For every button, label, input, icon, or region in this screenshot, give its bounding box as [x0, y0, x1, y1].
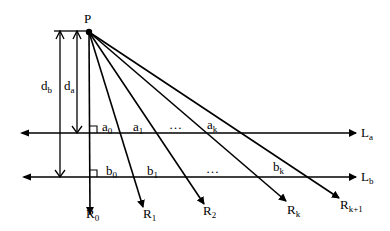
label-Rk: Rk [287, 203, 300, 219]
label-da: da [64, 79, 75, 95]
label-b1: b1 [147, 164, 158, 180]
label-R1: R1 [143, 207, 156, 223]
diagram-lines [0, 0, 390, 231]
right-angle-a [90, 126, 97, 133]
right-angle-b [90, 170, 97, 177]
label-La: La [361, 126, 373, 142]
ray-R0 [89, 32, 90, 214]
label-ak: ak [207, 118, 217, 134]
label-b0: b0 [106, 164, 117, 180]
ray-Rk [89, 32, 286, 201]
label-a-ellipsis: … [169, 118, 182, 131]
label-bk: bk [273, 160, 284, 176]
diagram-canvas: P db da a0 a1 … ak b0 b1 … bk La Lb R0 R… [0, 0, 390, 231]
arrow-left-La [20, 130, 29, 137]
label-a1: a1 [133, 120, 143, 136]
label-Rk1: Rk+1 [340, 198, 363, 214]
arrow-left-Lb [22, 174, 31, 181]
label-db: db [41, 79, 52, 95]
label-P: P [84, 12, 91, 25]
label-b-ellipsis: … [206, 162, 219, 175]
point-P [86, 29, 92, 35]
label-Lb: Lb [361, 170, 373, 186]
label-a0: a0 [102, 120, 112, 136]
label-R0: R0 [86, 207, 99, 223]
label-R2: R2 [203, 204, 216, 220]
